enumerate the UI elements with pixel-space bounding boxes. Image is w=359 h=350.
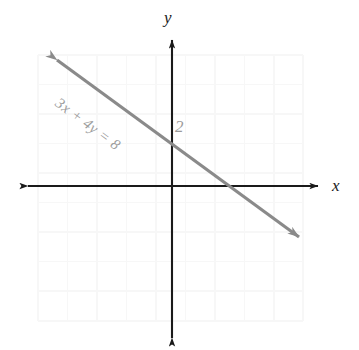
y-intercept-label: 2 bbox=[175, 118, 184, 135]
plot-canvas bbox=[0, 0, 359, 350]
coordinate-plane-figure: y x 2 3x + 4y = 8 bbox=[0, 0, 359, 350]
grid-lines bbox=[38, 55, 303, 321]
y-axis-label: y bbox=[164, 9, 172, 26]
line-3x-plus-4y-equals-8 bbox=[57, 60, 299, 237]
x-axis-label: x bbox=[332, 177, 340, 194]
